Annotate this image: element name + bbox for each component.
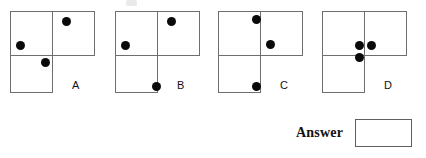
figure-d-dot-1 (355, 41, 364, 50)
figure-b-cell-top-right (157, 11, 200, 56)
figure-a-dot-1 (62, 17, 71, 26)
answer-input-box[interactable] (355, 119, 412, 147)
figure-c-dot-2 (266, 40, 275, 49)
figure-a-dot-3 (41, 58, 50, 67)
figure-option-a[interactable]: A (10, 0, 115, 105)
figure-d-dot-2 (367, 41, 376, 50)
figure-b-dot-1 (167, 17, 176, 26)
figure-a-dot-2 (16, 41, 25, 50)
figure-c-dot-3 (252, 82, 261, 91)
figure-b-label: B (177, 80, 184, 91)
figure-option-b[interactable]: B (115, 0, 220, 105)
figure-option-d[interactable]: D (322, 0, 426, 105)
figure-b-dot-2 (121, 41, 130, 50)
figure-a-cell-top-left (10, 11, 53, 56)
figure-a-label: A (72, 80, 79, 91)
figure-a-cell-top-right (52, 11, 95, 56)
figure-c-label: C (280, 80, 288, 91)
dot-pattern-puzzle: A B C D Answer (0, 0, 426, 158)
figure-d-label: D (384, 80, 392, 91)
answer-row: Answer (296, 119, 412, 147)
figure-option-c[interactable]: C (218, 0, 323, 105)
figure-c-cell-top-right (260, 11, 303, 56)
figure-b-dot-3 (152, 82, 161, 91)
figure-c-dot-1 (252, 15, 261, 24)
answer-label: Answer (296, 125, 343, 141)
figure-b-cell-top-left (115, 11, 158, 56)
figure-d-dot-3 (355, 53, 364, 62)
